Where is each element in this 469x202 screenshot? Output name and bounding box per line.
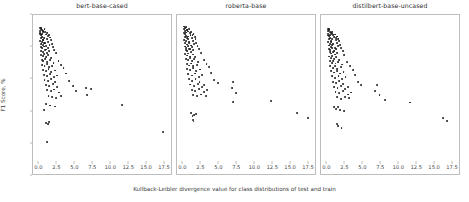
data-point <box>52 83 54 85</box>
data-point <box>46 38 48 40</box>
data-point <box>357 81 359 83</box>
data-point <box>335 108 337 110</box>
data-point <box>346 61 348 63</box>
data-point <box>47 47 49 49</box>
data-point <box>193 85 195 87</box>
data-point <box>205 95 207 97</box>
panel-distilbert-base-uncased: distilbert-base-uncased <box>320 14 460 175</box>
panel-title: distilbert-base-uncased <box>320 2 460 9</box>
data-point <box>384 99 386 101</box>
data-point <box>332 31 334 33</box>
data-point <box>374 90 376 92</box>
data-point <box>343 54 345 56</box>
data-point <box>337 87 339 89</box>
x-tick-label: 2.5 <box>340 164 348 170</box>
data-point <box>347 86 349 88</box>
data-point <box>339 109 341 111</box>
data-point <box>60 64 62 66</box>
y-tick-mark <box>30 110 33 111</box>
data-point <box>333 86 335 88</box>
data-point <box>187 59 189 61</box>
data-point <box>352 69 354 71</box>
data-point <box>341 64 343 66</box>
data-point <box>51 43 53 45</box>
data-point <box>329 29 331 31</box>
data-point <box>344 96 346 98</box>
y-tick-mark <box>30 46 33 47</box>
data-point <box>192 40 194 42</box>
data-point <box>232 101 234 103</box>
data-point <box>189 84 191 86</box>
y-tick-mark <box>30 78 33 79</box>
data-point <box>191 89 193 91</box>
data-point <box>271 100 273 102</box>
data-point <box>121 104 123 106</box>
data-point <box>188 48 190 50</box>
x-tick-label: 7.5 <box>232 164 240 170</box>
data-point <box>39 33 41 35</box>
data-point <box>48 68 50 70</box>
data-point <box>442 117 444 119</box>
data-point <box>48 85 50 87</box>
x-tick-label: 15.0 <box>140 164 152 170</box>
data-point <box>48 95 50 97</box>
data-point <box>231 87 233 89</box>
data-point <box>191 46 193 48</box>
panel-bert-base-cased: bert-base-cased <box>32 14 172 175</box>
y-axis-label: F1 Score, % <box>0 78 6 111</box>
data-point <box>334 65 336 67</box>
data-point <box>350 92 352 94</box>
data-point <box>195 78 197 80</box>
x-tick-label: 0.0 <box>34 164 42 170</box>
data-point <box>191 37 193 39</box>
data-point <box>331 47 333 49</box>
data-point <box>50 90 52 92</box>
data-point <box>379 95 381 97</box>
panel-title: bert-base-cased <box>32 2 172 9</box>
data-point <box>327 35 329 37</box>
data-point <box>188 65 190 67</box>
data-point <box>331 38 333 40</box>
data-point <box>55 97 57 99</box>
data-point <box>43 109 45 111</box>
data-point <box>72 85 74 87</box>
data-point <box>330 57 332 59</box>
data-point <box>342 83 344 85</box>
data-point <box>46 63 48 65</box>
data-point <box>188 28 190 30</box>
data-point <box>337 106 339 108</box>
data-point <box>190 112 192 114</box>
data-point <box>183 32 185 34</box>
data-point <box>446 120 448 122</box>
data-point <box>198 76 200 78</box>
y-tick-mark <box>30 175 33 176</box>
x-tick-label: 12.5 <box>266 164 278 170</box>
data-point <box>185 26 187 28</box>
data-point <box>42 69 44 71</box>
data-point <box>52 65 54 67</box>
data-point <box>203 91 205 93</box>
data-point <box>192 54 194 56</box>
data-point <box>58 92 60 94</box>
data-point <box>190 63 192 65</box>
x-tick-label: 15.0 <box>284 164 296 170</box>
data-point <box>192 94 194 96</box>
data-point <box>44 49 46 51</box>
data-point <box>54 70 56 72</box>
data-point <box>54 106 56 108</box>
data-point <box>186 68 188 70</box>
data-point <box>197 45 199 47</box>
data-point <box>47 41 49 43</box>
data-point <box>344 88 346 90</box>
data-point <box>203 59 205 61</box>
data-point <box>65 73 67 75</box>
data-point <box>296 113 298 115</box>
x-tick-label: 17.5 <box>302 164 314 170</box>
data-point <box>56 86 58 88</box>
data-point <box>345 76 347 78</box>
data-point <box>201 74 203 76</box>
data-point <box>43 60 45 62</box>
data-point <box>335 91 337 93</box>
data-point <box>360 85 362 87</box>
x-tick-label: 17.5 <box>446 164 458 170</box>
